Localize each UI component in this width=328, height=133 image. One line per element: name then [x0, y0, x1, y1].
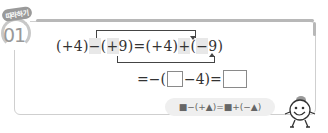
term-4-sign: − [196, 38, 208, 54]
arrow-bottom-line [117, 56, 215, 63]
term-4-rest: 9) [208, 38, 223, 54]
term-3: (+4) [146, 38, 179, 54]
equals-sign: = [134, 38, 146, 54]
problem-number: 01 [3, 24, 25, 46]
term-2-rest: 9) [119, 38, 134, 54]
term-2-sign: + [107, 38, 119, 54]
equation-line-2: =−( −4)= [137, 70, 248, 88]
arrow-up-icon [209, 53, 215, 57]
term-1: (+4) [56, 38, 89, 54]
line2-prefix: =−( [137, 71, 166, 87]
mascot-character-icon [282, 92, 318, 132]
frame-top-accent [36, 19, 314, 22]
operator-plus: + [178, 38, 190, 54]
frame-right-accent [313, 22, 316, 36]
answer-blank-2[interactable] [223, 70, 247, 88]
answer-blank-1[interactable] [167, 71, 183, 87]
term-2-open: ( [101, 38, 107, 54]
arrow-top-line [96, 30, 196, 38]
operator-minus: − [89, 38, 101, 54]
line2-middle: −4)= [184, 71, 222, 87]
rule-hint: ■−(+▲)=■+(−▲) [165, 98, 275, 116]
equation-line-1: (+4)−(+9)=(+4)+(−9) [56, 38, 223, 54]
